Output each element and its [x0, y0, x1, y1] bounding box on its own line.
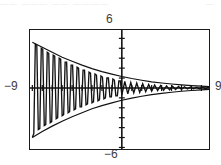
y-max-label: 6	[106, 13, 113, 25]
graph-screenshot: —— ——— —— ———— — 6 −6 −9 9	[0, 0, 221, 165]
x-min-label: −9	[4, 80, 18, 92]
clipped-text-remnant-left: —— ——— —— ————	[0, 0, 109, 8]
plot-canvas	[30, 30, 209, 149]
plot-frame	[29, 29, 210, 150]
clipped-text-remnant: —— ——— —— ———— —	[0, 0, 221, 8]
clipped-text-remnant-right: —	[206, 0, 215, 8]
x-max-label: 9	[215, 80, 221, 92]
